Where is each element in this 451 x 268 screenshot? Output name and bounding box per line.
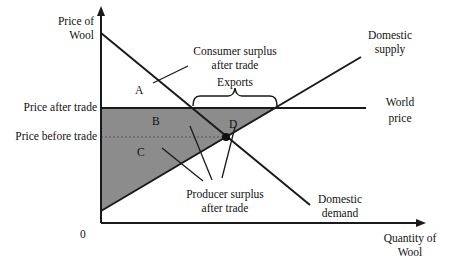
origin-label: 0 [80, 227, 86, 241]
area-d-label: D [229, 117, 237, 131]
x-axis-label-line2: Wool [375, 245, 445, 259]
equilibrium-point [222, 133, 230, 141]
producer-surplus-label-line1: Producer surplus [175, 187, 275, 201]
area-b-label: B [152, 114, 160, 128]
supply-label-line2: supply [355, 42, 425, 56]
area-c-label: C [137, 145, 145, 159]
producer-surplus-label-line2: after trade [175, 201, 275, 215]
supply-label-line1: Domestic [355, 28, 425, 42]
consumer-surplus-label-line1: Consumer surplus [180, 44, 290, 58]
world-price-label-line1: World [370, 95, 430, 109]
y-axis-label-line2: Wool [20, 28, 94, 42]
demand-label-line1: Domestic [305, 192, 375, 206]
exports-label: Exports [205, 75, 265, 89]
price-before-trade-label: Price before trade [0, 129, 97, 143]
y-axis-label-line1: Price of [20, 14, 94, 28]
price-after-trade-label: Price after trade [0, 100, 97, 114]
area-a-label: A [135, 83, 143, 97]
x-axis-arrow-icon [416, 219, 426, 227]
consumer-surplus-label-line2: after trade [180, 58, 290, 72]
x-axis-label-line1: Quantity of [375, 231, 445, 245]
y-axis-arrow-icon [97, 6, 105, 16]
exports-brace [193, 88, 277, 106]
demand-label-line2: demand [305, 206, 375, 220]
world-price-label-line2: price [370, 111, 430, 125]
